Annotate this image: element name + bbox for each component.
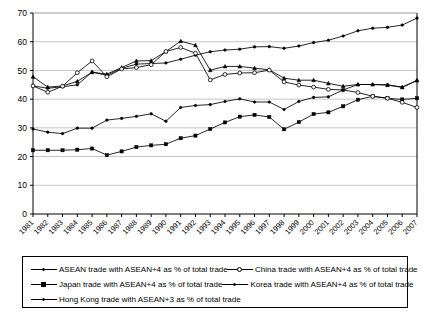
series-1 — [31, 95, 418, 157]
series-4 — [32, 79, 419, 135]
svg-text:1982: 1982 — [32, 218, 50, 236]
legend-label-hongkong: Hong Kong trade with ASEAN+3 as % of tot… — [57, 295, 241, 304]
svg-text:1995: 1995 — [224, 218, 242, 236]
series-2 — [31, 39, 419, 89]
axes — [33, 13, 417, 214]
chart-plot-area: 010203040506070 198119821983198419851986… — [0, 0, 429, 255]
legend-marker-square-filled-icon — [31, 279, 57, 290]
svg-text:1990: 1990 — [150, 218, 168, 236]
series-3 — [31, 46, 419, 110]
legend-item-korea[interactable]: Korea trade with ASEAN+4 as % of total t… — [222, 277, 402, 292]
svg-text:2003: 2003 — [342, 218, 360, 236]
svg-text:1994: 1994 — [209, 218, 227, 236]
legend-label-asean: ASEAN trade with ASEAN+4 as % of total t… — [57, 265, 228, 274]
svg-text:1993: 1993 — [194, 218, 212, 236]
svg-text:10: 10 — [18, 180, 28, 190]
legend-label-japan: Japan trade with ASEAN+4 as % of total t… — [57, 280, 222, 289]
svg-text:40: 40 — [18, 94, 28, 104]
legend-item-china[interactable]: China trade with ASEAN+4 as % of total t… — [227, 262, 407, 277]
legend-label-china: China trade with ASEAN+4 as % of total t… — [253, 265, 418, 274]
svg-text:1996: 1996 — [239, 218, 257, 236]
data-series-group — [31, 17, 419, 157]
svg-text:1991: 1991 — [165, 218, 183, 236]
svg-text:30: 30 — [18, 123, 28, 133]
legend-marker-plus-icon — [31, 264, 57, 275]
svg-text:0: 0 — [22, 209, 27, 219]
svg-text:70: 70 — [18, 8, 28, 18]
chart-legend: ASEAN trade with ASEAN+4 as % of total t… — [22, 256, 408, 308]
legend-item-hongkong[interactable]: Hong Kong trade with ASEAN+3 as % of tot… — [31, 292, 227, 307]
svg-text:1999: 1999 — [283, 218, 301, 236]
svg-text:1987: 1987 — [106, 218, 124, 236]
legend-row-2: Japan trade with ASEAN+4 as % of total t… — [31, 277, 401, 292]
svg-text:2000: 2000 — [298, 218, 316, 236]
svg-text:1984: 1984 — [61, 218, 79, 236]
svg-text:1998: 1998 — [268, 218, 286, 236]
svg-text:60: 60 — [18, 37, 28, 47]
svg-text:1997: 1997 — [253, 218, 271, 236]
svg-text:2001: 2001 — [312, 218, 330, 236]
svg-text:2002: 2002 — [327, 218, 345, 236]
svg-text:2007: 2007 — [401, 218, 419, 236]
svg-text:1985: 1985 — [76, 218, 94, 236]
svg-text:1988: 1988 — [120, 218, 138, 236]
legend-row-1: ASEAN trade with ASEAN+4 as % of total t… — [31, 262, 401, 277]
svg-text:20: 20 — [18, 152, 28, 162]
series-0 — [32, 17, 419, 90]
line-chart-svg: 010203040506070 198119821983198419851986… — [0, 0, 429, 255]
legend-label-korea: Korea trade with ASEAN+4 as % of total t… — [248, 280, 413, 289]
svg-text:1986: 1986 — [91, 218, 109, 236]
x-axis-tick-labels: 1981198219831984198519861987198819891990… — [17, 214, 419, 236]
svg-text:1983: 1983 — [47, 218, 65, 236]
svg-text:50: 50 — [18, 66, 28, 76]
svg-text:1981: 1981 — [17, 218, 35, 236]
svg-text:2006: 2006 — [386, 218, 404, 236]
svg-text:1989: 1989 — [135, 218, 153, 236]
legend-item-japan[interactable]: Japan trade with ASEAN+4 as % of total t… — [31, 277, 222, 292]
svg-text:1992: 1992 — [180, 218, 198, 236]
legend-marker-triangle-filled-icon — [31, 294, 57, 305]
y-axis-tick-labels: 010203040506070 — [18, 8, 33, 219]
chart-page: 010203040506070 198119821983198419851986… — [0, 0, 429, 318]
legend-marker-circle-hollow-icon — [227, 264, 253, 275]
legend-row-3: Hong Kong trade with ASEAN+3 as % of tot… — [31, 292, 401, 307]
legend-marker-dot-filled-icon — [222, 279, 248, 290]
legend-item-asean[interactable]: ASEAN trade with ASEAN+4 as % of total t… — [31, 262, 227, 277]
svg-text:2004: 2004 — [357, 218, 375, 236]
svg-text:2005: 2005 — [372, 218, 390, 236]
